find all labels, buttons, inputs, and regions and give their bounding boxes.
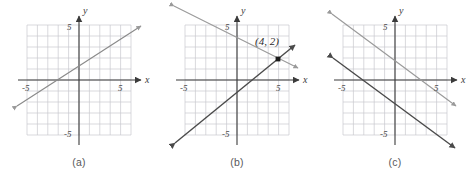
x-tick-pos-a: 5 [118,83,123,93]
intersection-point-marker [276,57,281,62]
x-tick-pos-c: 5 [434,83,439,93]
x-axis-label-c: x [460,74,466,85]
x-axis-label-a: x [144,74,150,85]
x-tick-neg-b: -5 [180,83,188,93]
x-tick-pos-b: 5 [276,83,281,93]
graph-panel-c: x y 5 -5 5 -5 (c) [316,0,474,186]
y-tick-neg-c: -5 [380,129,388,139]
y-tick-pos-c: 5 [383,22,388,32]
panel-caption-a: (a) [0,156,158,168]
figure-row: x y 5 -5 5 -5 (a) [0,0,474,186]
coordinate-plot-c: x y 5 -5 5 -5 [316,0,474,156]
x-tick-neg-a: -5 [22,83,30,93]
panel-caption-c: (c) [316,156,474,168]
y-axis-label-c: y [398,5,404,16]
graph-panel-a: x y 5 -5 5 -5 (a) [0,0,158,186]
intersection-point-label: (4, 2) [255,35,279,48]
x-axis-label-b: x [302,74,308,85]
graph-panel-b: (4, 2) x y 5 -5 5 -5 (b) [158,0,316,186]
y-tick-neg-a: -5 [64,129,72,139]
y-tick-neg-b: -5 [222,129,230,139]
coordinate-plot-a: x y 5 -5 5 -5 [0,0,158,156]
y-axis-label-a: y [82,5,88,16]
y-tick-pos-b: 5 [225,22,230,32]
panel-caption-b: (b) [158,156,316,168]
y-axis-label-b: y [240,5,246,16]
y-tick-pos-a: 5 [67,22,72,32]
x-tick-neg-c: -5 [338,83,346,93]
coordinate-plot-b: (4, 2) x y 5 -5 5 -5 [158,0,316,156]
